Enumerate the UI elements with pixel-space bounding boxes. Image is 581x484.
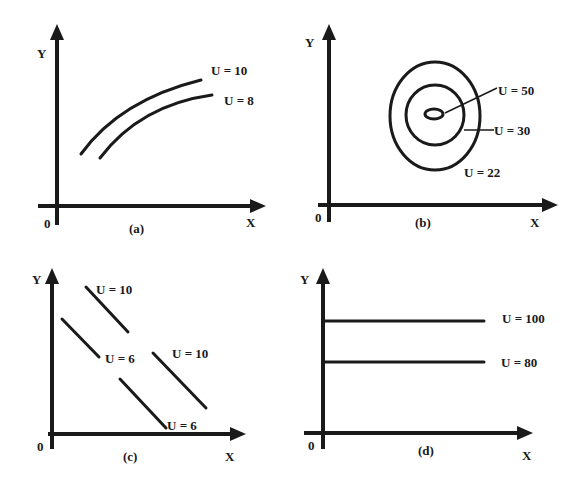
x-axis-label: X <box>530 215 540 230</box>
panel-c: Y 0 X (c) U = 10 U = 6 U = 10 U = 6 <box>32 268 246 464</box>
indifference-curve-u10 <box>81 80 201 154</box>
curve-label-u10-lower: U = 10 <box>172 346 208 361</box>
x-axis-label: X <box>246 215 256 230</box>
panel-caption: (d) <box>418 443 434 458</box>
y-axis-arrow-icon <box>45 268 59 284</box>
origin-label: 0 <box>44 216 51 231</box>
y-axis-label: Y <box>32 272 42 287</box>
curve-label-u8: U = 8 <box>224 93 254 108</box>
x-axis-arrow-icon <box>250 199 266 213</box>
indifference-curves-figure: Y 0 X (a) U = 10 U = 8 Y 0 X (b) U = 50 … <box>0 0 581 484</box>
curve-label-u6-upper: U = 6 <box>105 351 135 366</box>
panel-caption: (b) <box>415 215 431 230</box>
panel-b: Y 0 X (b) U = 50 U = 30 U = 22 <box>305 24 558 230</box>
x-axis-arrow-icon <box>542 198 558 212</box>
y-axis-label: Y <box>37 46 47 61</box>
curve-label-u80: U = 80 <box>501 355 537 370</box>
curve-label-u50: U = 50 <box>498 83 534 98</box>
indifference-line-u6-upper <box>62 319 99 357</box>
x-axis-arrow-icon <box>517 426 533 440</box>
panel-caption: (c) <box>123 449 137 464</box>
y-axis-arrow-icon <box>316 268 330 284</box>
y-axis-label: Y <box>305 35 315 50</box>
curve-label-u100: U = 100 <box>502 311 545 326</box>
indifference-curve-u8 <box>100 95 212 158</box>
y-axis-arrow-icon <box>50 24 64 40</box>
origin-label: 0 <box>315 210 322 225</box>
curve-label-u10-upper: U = 10 <box>96 282 132 297</box>
curve-label-u30: U = 30 <box>494 123 530 138</box>
origin-label: 0 <box>308 438 315 453</box>
indifference-curve-u30 <box>406 85 464 145</box>
indifference-curve-u50 <box>425 109 443 119</box>
indifference-line-u6-lower <box>120 379 166 428</box>
panel-caption: (a) <box>129 221 144 236</box>
indifference-curve-u22 <box>390 62 480 170</box>
x-axis-arrow-icon <box>230 427 246 441</box>
curve-label-u10: U = 10 <box>211 63 247 78</box>
y-axis-label: Y <box>300 272 310 287</box>
x-axis-label: X <box>522 448 532 463</box>
panel-d: Y 0 X (d) U = 100 U = 80 <box>300 268 545 463</box>
curve-label-u22: U = 22 <box>464 165 500 180</box>
x-axis-label: X <box>225 449 235 464</box>
y-axis-arrow-icon <box>322 24 336 40</box>
panel-a: Y 0 X (a) U = 10 U = 8 <box>37 24 266 236</box>
origin-label: 0 <box>37 439 44 454</box>
curve-label-u6-lower: U = 6 <box>167 418 197 433</box>
indifference-line-u10-lower <box>153 353 206 408</box>
